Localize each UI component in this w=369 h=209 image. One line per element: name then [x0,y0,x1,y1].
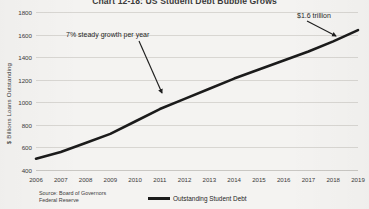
chart-title: Chart 12-18: US Student Debt Bubble Grow… [0,0,369,6]
annotation-growth-label: 7% steady growth per year [66,31,149,38]
x-tick-label-2018: 2018 [326,176,340,183]
y-tick-label-1200: 1200 [18,76,32,83]
x-tick-label-2010: 2010 [128,176,142,183]
x-tick-label-2008: 2008 [79,176,93,183]
y-tick-label-600: 600 [22,144,32,151]
x-tick-label-2016: 2016 [277,176,291,183]
y-tick-label-800: 800 [22,121,32,128]
source-line-2: Federal Reserve [39,197,106,204]
x-tick-label-2013: 2013 [203,176,217,183]
source-note: Source: Board of Governors Federal Reser… [39,190,106,205]
x-tick-label-2006: 2006 [29,176,43,183]
y-tick-label-1000: 1000 [18,99,32,106]
x-tick-label-2012: 2012 [178,176,192,183]
x-tick-label-2011: 2011 [153,176,166,183]
y-tick-label-1800: 1800 [18,9,32,16]
x-tick-label-2007: 2007 [54,176,68,183]
source-line-1: Source: Board of Governors [39,190,106,197]
y-tick-label-400: 400 [22,167,32,174]
legend-label: Outstanding Student Debt [173,195,247,202]
x-tick-label-2009: 2009 [104,176,118,183]
annotation-trillion-label: $1.6 trillion [297,12,331,19]
legend-swatch-icon [148,197,170,199]
chart-container: Chart 12-18: US Student Debt Bubble Grow… [0,0,369,209]
y-axis-title: $ Billions Loans Outstanding [5,44,12,164]
y-tick-label-1600: 1600 [18,31,32,38]
chart-legend: Outstanding Student Debt [148,195,247,202]
y-tick-label-1400: 1400 [18,54,32,61]
x-tick-label-2017: 2017 [302,176,316,183]
x-tick-label-2014: 2014 [227,176,241,183]
x-tick-label-2019: 2019 [351,176,365,183]
x-tick-label-2015: 2015 [252,176,266,183]
gridline-400 [36,170,358,171]
